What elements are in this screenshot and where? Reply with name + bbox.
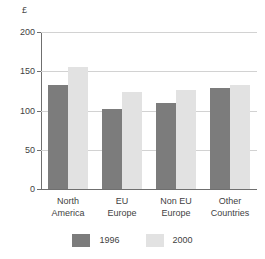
bar xyxy=(176,90,196,189)
plot-area xyxy=(41,32,257,189)
chart-legend: 19962000 xyxy=(0,234,265,247)
legend-item-2000[interactable]: 2000 xyxy=(146,234,193,247)
y-tick-label: 50 xyxy=(0,146,35,155)
bar-chart: £ 050100150200 NorthAmericaEUEuropeNon E… xyxy=(0,0,265,259)
bar xyxy=(68,67,88,189)
x-axis-label-line: Countries xyxy=(197,207,263,219)
gridline-0 xyxy=(41,189,257,190)
bar xyxy=(210,88,230,189)
bar xyxy=(102,109,122,189)
x-axis-label-line: Other xyxy=(197,195,263,207)
legend-label: 2000 xyxy=(173,236,193,245)
legend-label: 1996 xyxy=(99,236,119,245)
bar xyxy=(122,92,142,189)
bar xyxy=(156,103,176,189)
y-tick-label: 100 xyxy=(0,107,35,116)
bar xyxy=(48,85,68,189)
y-tick-label: 200 xyxy=(0,28,35,37)
legend-swatch xyxy=(72,234,90,247)
legend-item-1996[interactable]: 1996 xyxy=(72,234,119,247)
gridline-200 xyxy=(41,32,257,33)
legend-swatch xyxy=(146,234,164,247)
y-tick-label: 0 xyxy=(0,185,35,194)
x-axis-label: OtherCountries xyxy=(197,195,263,219)
currency-unit-label: £ xyxy=(22,5,27,15)
bar xyxy=(230,85,250,189)
y-tick-label: 150 xyxy=(0,67,35,76)
